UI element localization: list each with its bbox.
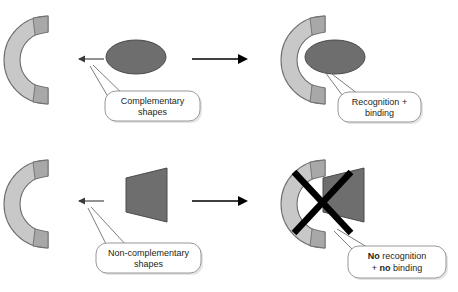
- callout-line-1: Non-complementary: [108, 248, 190, 258]
- c-shaped-receptor: [4, 160, 48, 248]
- transition-arrow-bottom: [192, 196, 248, 206]
- ellipse-ligand: [106, 40, 166, 74]
- panel-non-complementary-blocked: [281, 160, 364, 248]
- callout-recognition-binding: Recognition + binding: [325, 71, 423, 124]
- callout-line-2: + no binding: [372, 263, 422, 273]
- callout-line-1: Complementary: [121, 96, 185, 106]
- callout-no-recognition-no-binding: No recognition + no binding: [334, 229, 448, 280]
- callout-bold-no-2: no: [380, 263, 391, 273]
- molecular-recognition-figure: Complementary shapes Recognition + bindi…: [0, 0, 458, 292]
- callout-prefix-plus: +: [372, 263, 380, 273]
- callout-line-2: shapes: [138, 107, 168, 117]
- callout-line-2: binding: [365, 108, 394, 118]
- callout-rest-recognition: recognition: [380, 251, 427, 261]
- callout-bold-no: No: [368, 251, 380, 261]
- diagram-canvas: Complementary shapes Recognition + bindi…: [0, 0, 458, 292]
- callout-line-1: Recognition +: [352, 97, 407, 107]
- ellipse-ligand: [305, 40, 365, 74]
- row-non-complementary: Non-complementary shapes No recognition …: [4, 160, 448, 280]
- callout-line-2: shapes: [134, 259, 164, 269]
- wedge-ligand: [126, 168, 167, 222]
- approach-arrow-left: [78, 56, 104, 63]
- callout-rest-binding: binding: [391, 263, 423, 273]
- panel-non-complementary-unbound: [4, 160, 167, 248]
- callout-line-1: No recognition: [368, 251, 427, 261]
- row-complementary: Complementary shapes Recognition + bindi…: [4, 16, 423, 124]
- c-shaped-receptor: [4, 16, 48, 104]
- transition-arrow-top: [192, 54, 248, 64]
- approach-arrow-left: [78, 198, 104, 205]
- callout-complementary-shapes: Complementary shapes: [90, 65, 202, 123]
